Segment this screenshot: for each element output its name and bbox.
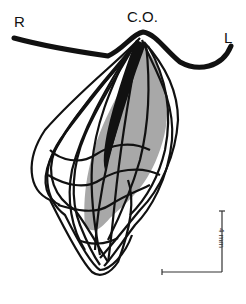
scale-bar-label: 4 mm <box>217 228 226 248</box>
trajectory-drawing <box>0 0 246 304</box>
label-right: R <box>14 14 25 29</box>
label-left: L <box>224 30 232 45</box>
label-center: C.O. <box>127 9 158 24</box>
scale-bar <box>162 211 225 275</box>
